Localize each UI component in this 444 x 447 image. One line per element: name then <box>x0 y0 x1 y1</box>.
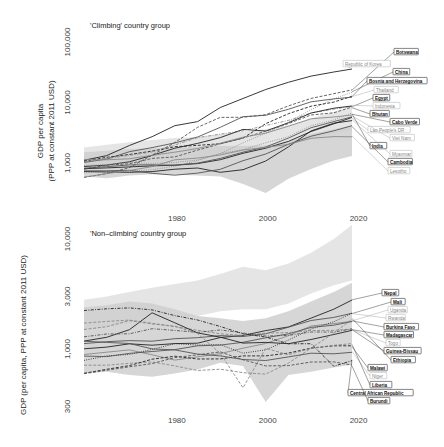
country-label: Myanmar <box>392 152 412 157</box>
country-label: Guinea-Bissau <box>386 349 418 354</box>
x-tick-label: 1980 <box>168 416 186 425</box>
label-leader-line <box>352 108 370 114</box>
label-leader-line <box>352 302 391 314</box>
direct-labels-non-climbing: NepalMaliUgandaRwandaBurkina FasoMadagas… <box>348 289 421 403</box>
country-label: Lao People's DR <box>370 128 405 133</box>
x-tick-label: 1980 <box>168 214 186 223</box>
label-leader-line <box>352 52 394 90</box>
range-bands-non-climbing <box>84 225 352 402</box>
y-tick-label: 1,000 <box>63 152 72 173</box>
country-label: Uganda <box>390 308 407 313</box>
y-tick-label: 1,000 <box>63 338 72 359</box>
label-leader-line <box>352 310 388 321</box>
label-leader-line <box>352 293 382 300</box>
y-axis-label-line2: (PPP at constant 2011 USD) <box>47 80 56 181</box>
direct-labels-climbing: BotswanaRepublic of KoreaChinaBosnia and… <box>343 48 427 173</box>
country-label: Cambodia <box>390 160 413 165</box>
y-tick-label: 3,000 <box>63 286 72 307</box>
y-axis-label-line1: GDP per capita <box>36 103 45 158</box>
x-tick-label: 2020 <box>350 416 368 425</box>
country-label: Indonesia <box>375 104 395 109</box>
label-leader-line <box>352 330 384 335</box>
country-label: Central African Republic <box>350 391 404 396</box>
y-axis-label-non-climbing: GDP (per capita, PPP at constant 2011 US… <box>19 255 28 415</box>
y-tick-label: 10,000 <box>63 226 72 251</box>
country-label: Bhutan <box>372 112 388 117</box>
panel-title-climbing: 'Climbing' country group <box>90 21 170 30</box>
y-tick-label: 300 <box>63 399 72 413</box>
country-label: Liberia <box>372 383 388 388</box>
country-label: Cabo Verde <box>392 120 418 125</box>
country-label: China <box>395 70 408 75</box>
country-label: Burundi <box>370 399 388 404</box>
range-bands-climbing <box>84 107 352 193</box>
label-leader-line <box>352 114 370 146</box>
country-label: Lesotho <box>390 169 407 174</box>
country-label: Mali <box>393 300 402 305</box>
label-leader-line <box>352 321 384 327</box>
country-label: Ethiopia <box>393 358 412 363</box>
country-label: Republic of Korea <box>345 62 382 67</box>
country-label: Burkina Faso <box>386 325 415 330</box>
country-label: Bosnia and Herzegovina <box>369 79 423 84</box>
y-axis-ticks-non-climbing: 3001,0003,00010,000 <box>63 226 72 413</box>
x-tick-label: 2020 <box>350 214 368 223</box>
country-label: Togo <box>388 341 398 346</box>
x-axis-ticks-non-climbing: 198020002020 <box>168 416 368 425</box>
x-axis-ticks-climbing: 198020002020 <box>168 214 368 223</box>
y-tick-label: 10,000 <box>63 90 72 115</box>
country-label: Malawi <box>370 366 385 371</box>
panel-climbing: 'Climbing' country group GDP per capita … <box>36 21 427 223</box>
country-label: Viet Nam <box>392 136 411 141</box>
y-axis-ticks-climbing: 1,00010,000100,000 <box>63 27 72 173</box>
chart-figure: 'Climbing' country group GDP per capita … <box>0 0 444 447</box>
y-tick-label: 100,000 <box>63 27 72 56</box>
country-label: Egypt <box>375 96 388 101</box>
x-tick-label: 2000 <box>259 214 277 223</box>
country-label: Thailand <box>376 88 394 93</box>
panel-non-climbing: 'Non–climbing' country group GDP (per ca… <box>19 225 421 425</box>
label-leader-line <box>352 136 388 171</box>
country-label: Rwanda <box>388 316 405 321</box>
x-tick-label: 2000 <box>259 416 277 425</box>
label-leader-line <box>352 314 386 318</box>
country-label: Botswana <box>396 50 418 55</box>
country-label: Niger <box>372 374 383 379</box>
panel-title-non-climbing: 'Non–climbing' country group <box>90 229 186 238</box>
y-axis-label-climbing: GDP per capita (PPP at constant 2011 USD… <box>36 80 56 181</box>
country-label: Madagascar <box>386 333 413 338</box>
label-leader-line <box>352 344 370 385</box>
country-label: Nepal <box>384 291 397 296</box>
